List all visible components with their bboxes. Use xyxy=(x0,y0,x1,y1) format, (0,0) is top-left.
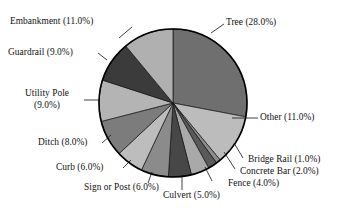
leader-line-embankment xyxy=(119,27,132,38)
slice-label-other: Other (11.0%) xyxy=(260,112,314,123)
slice-label-tree: Tree (28.0%) xyxy=(226,17,276,28)
slice-label-culvert: Culvert (5.0%) xyxy=(163,190,220,201)
leader-line-guardrail xyxy=(98,53,107,60)
slice-label-utility-pole-name: Utility Pole xyxy=(25,88,69,98)
slice-label-curb: Curb (6.0%) xyxy=(56,162,103,173)
pie-chart-figure: Embankment (11.0%) Guardrail (9.0%) Util… xyxy=(0,0,346,220)
slice-label-fence: Fence (4.0%) xyxy=(228,178,279,189)
leader-line-tree xyxy=(211,24,224,33)
slice-label-utility-pole: Utility Pole (9.0%) xyxy=(12,88,82,111)
leader-line-fence xyxy=(205,167,212,181)
leader-line-bridge-rail xyxy=(234,143,243,158)
slice-label-concrete-bar: Concrete Bar (2.0%) xyxy=(240,166,319,177)
slice-label-embankment: Embankment (11.0%) xyxy=(10,16,93,27)
pie-slice-tree[interactable] xyxy=(173,29,247,117)
slice-label-guardrail: Guardrail (9.0%) xyxy=(8,47,73,58)
slice-label-utility-pole-value: (9.0%) xyxy=(34,100,60,110)
leader-line-concrete-bar xyxy=(224,152,235,169)
slice-label-sign-or-post: Sign or Post (6.0%) xyxy=(84,182,159,193)
slice-label-bridge-rail: Bridge Rail (1.0%) xyxy=(248,154,321,165)
slice-label-ditch: Ditch (8.0%) xyxy=(38,137,88,148)
